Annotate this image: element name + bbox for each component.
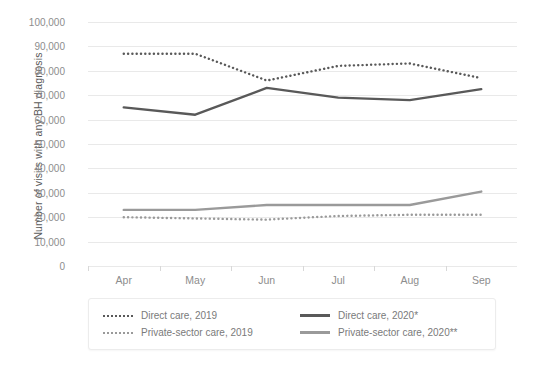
x-axis-tick-label: May [165, 274, 225, 286]
legend-item[interactable]: Direct care, 2020* [300, 307, 481, 324]
legend-swatch-icon [300, 314, 330, 317]
legend-label: Direct care, 2020* [338, 310, 418, 321]
y-axis-tick-label: 70,000 [5, 90, 65, 101]
y-axis-tick-label: 60,000 [5, 114, 65, 125]
line-chart: Number of visits with any BH diagnosis 1… [0, 0, 534, 372]
plot-area: 100,00090,00080,00070,00060,00050,00040,… [88, 22, 517, 266]
chart-legend: Direct care, 2019 Direct care, 2020* Pri… [88, 298, 496, 350]
legend-item[interactable]: Direct care, 2019 [103, 307, 300, 324]
series-lines-group [88, 22, 517, 266]
legend-label: Private-sector care, 2020** [338, 327, 458, 338]
y-axis-tick-label: 50,000 [5, 139, 65, 150]
y-axis-tick-label: 10,000 [5, 236, 65, 247]
x-axis-tick-label: Jul [308, 274, 368, 286]
x-axis-tick-label: Jun [237, 274, 297, 286]
legend-item[interactable]: Private-sector care, 2019 [103, 324, 300, 341]
series-line [124, 54, 482, 81]
x-axis-tick-label: Apr [94, 274, 154, 286]
legend-swatch-icon [103, 332, 133, 334]
x-axis-tick-label: Sep [451, 274, 511, 286]
x-axis-tick-mark [88, 266, 89, 271]
x-axis-tick-mark [160, 266, 161, 271]
series-line [124, 215, 482, 220]
y-axis-tick-label: 80,000 [5, 65, 65, 76]
series-line [124, 88, 482, 115]
x-axis-tick-mark [303, 266, 304, 271]
series-line [124, 192, 482, 210]
x-axis-tick-mark [446, 266, 447, 271]
y-axis-tick-label: 40,000 [5, 163, 65, 174]
x-axis-tick-label: Aug [380, 274, 440, 286]
y-axis-tick-label: 100,000 [5, 17, 65, 28]
y-axis-tick-label: 90,000 [5, 41, 65, 52]
y-axis-tick-label: 0 [5, 261, 65, 272]
x-axis-tick-mark [231, 266, 232, 271]
x-axis-tick-mark [374, 266, 375, 271]
legend-label: Private-sector care, 2019 [141, 327, 253, 338]
legend-swatch-icon [103, 315, 133, 317]
legend-swatch-icon [300, 331, 330, 334]
legend-item[interactable]: Private-sector care, 2020** [300, 324, 481, 341]
y-axis-tick-label: 20,000 [5, 212, 65, 223]
y-axis-tick-label: 30,000 [5, 187, 65, 198]
legend-label: Direct care, 2019 [141, 310, 217, 321]
